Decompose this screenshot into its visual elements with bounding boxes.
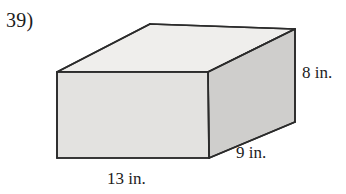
rectangular-prism-figure — [0, 0, 346, 194]
problem-number: 39) — [6, 10, 33, 30]
dimension-label-height: 8 in. — [302, 64, 332, 81]
dimension-label-depth: 9 in. — [236, 144, 266, 161]
edge-front-right-vertical — [208, 72, 209, 158]
prism-front-face — [57, 72, 209, 158]
dimension-label-length: 13 in. — [107, 170, 146, 187]
figure-page: 39) 8 in. 9 in. 13 in. — [0, 0, 346, 194]
